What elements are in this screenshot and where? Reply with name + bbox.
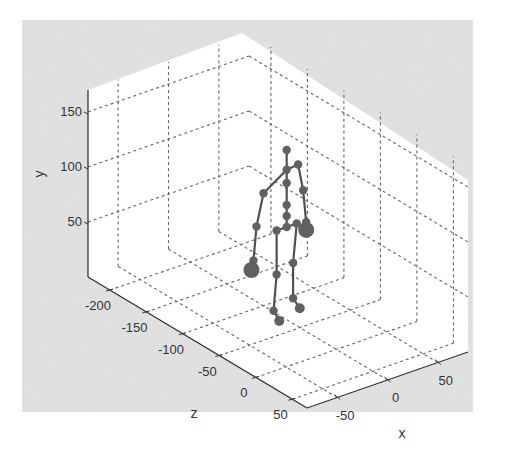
z-tick-label: 0 <box>240 385 247 400</box>
joint-spine-mid <box>282 201 290 209</box>
joint-shoulder-left <box>259 189 267 197</box>
joint-elbow-right <box>299 186 307 194</box>
z-tick-label: -100 <box>158 342 184 357</box>
z-tick-label: -200 <box>85 298 111 313</box>
y-axis-label: y <box>31 171 47 178</box>
x-tick-label: 50 <box>439 373 453 388</box>
joint-knee-left <box>272 270 280 278</box>
joint-foot-left <box>274 316 284 326</box>
joint-ankle-right <box>289 294 297 302</box>
joint-head <box>282 146 290 154</box>
y-tick-label: 50 <box>68 214 82 229</box>
z-tick-label: -150 <box>121 320 147 335</box>
x-tick-label: 0 <box>392 390 399 405</box>
z-axis-label: z <box>191 405 198 421</box>
joint-pelvis <box>282 223 290 231</box>
joint-ankle-left <box>269 306 277 314</box>
joint-shoulder-right <box>294 160 302 168</box>
joint-foot-right <box>295 303 305 313</box>
joint-hand-left <box>243 262 259 278</box>
z-tick-label: 50 <box>273 407 287 422</box>
x-axis-label: x <box>399 425 406 441</box>
joint-spine-upper <box>282 179 290 187</box>
joint-hip-left <box>272 226 280 234</box>
z-tick-label: -50 <box>198 364 217 379</box>
joint-spine-lower <box>282 212 290 220</box>
skeleton-3d-plot: 50100150-200-150-100-50050-50050 x y z <box>0 0 526 458</box>
joint-knee-right <box>289 259 297 267</box>
joint-neck <box>282 166 290 174</box>
joint-hip-right <box>293 219 301 227</box>
y-tick-label: 150 <box>60 104 82 119</box>
joint-elbow-left <box>252 222 260 230</box>
y-tick-label: 100 <box>60 159 82 174</box>
x-tick-label: -50 <box>336 408 355 423</box>
